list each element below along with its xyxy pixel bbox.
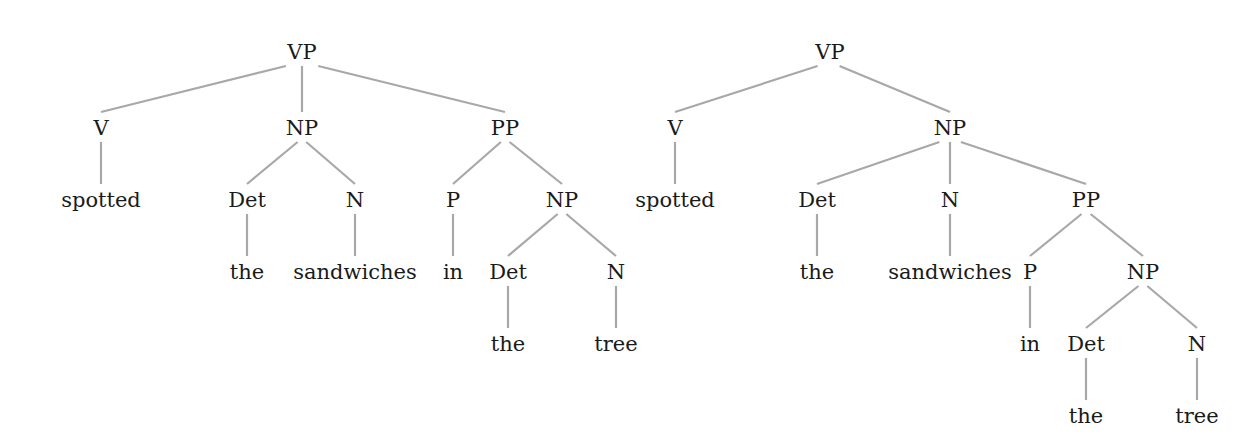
tree-node-pp: PP xyxy=(1072,188,1100,212)
tree-edge xyxy=(101,66,286,112)
tree-node-the: the xyxy=(800,260,834,284)
tree-edge xyxy=(1086,286,1138,328)
tree-node-det: Det xyxy=(489,260,527,284)
tree-node-np: NP xyxy=(934,116,967,140)
tree-edge xyxy=(961,142,1086,184)
tree-edge xyxy=(1147,286,1197,328)
tree-node-the: the xyxy=(230,260,264,284)
tree-node-vp: VP xyxy=(286,40,316,64)
tree-edge xyxy=(508,214,558,256)
tree-node-tree: tree xyxy=(1175,404,1218,428)
tree-node-det: Det xyxy=(1067,332,1105,356)
tree-node-det: Det xyxy=(798,188,836,212)
tree-node-n: N xyxy=(941,188,959,212)
syntax-tree-diagram: VPVNPPPspottedDetNPNPthesandwichesinDetN… xyxy=(0,0,1253,448)
tree-node-spotted: spotted xyxy=(61,188,141,212)
tree-edge xyxy=(318,66,505,112)
tree-node-det: Det xyxy=(228,188,266,212)
tree-node-v: V xyxy=(666,116,683,140)
tree-node-in: in xyxy=(443,260,463,284)
tree-node-p: P xyxy=(446,188,460,212)
tree-node-np: NP xyxy=(1127,260,1160,284)
tree-edge xyxy=(247,142,298,184)
tree-node-n: N xyxy=(1188,332,1206,356)
tree-node-n: N xyxy=(607,260,625,284)
tree-node-sandwiches: sandwiches xyxy=(293,260,416,284)
tree-edge xyxy=(566,214,616,256)
tree-edge xyxy=(510,142,562,184)
tree-node-p: P xyxy=(1023,260,1037,284)
tree-edge xyxy=(453,142,501,184)
tree-node-in: in xyxy=(1020,332,1040,356)
tree-node-tree: tree xyxy=(594,332,637,356)
tree-node-sandwiches: sandwiches xyxy=(888,260,1011,284)
tree-edge xyxy=(675,66,818,112)
tree-edge xyxy=(840,66,950,112)
tree-node-n: N xyxy=(346,188,364,212)
tree-node-spotted: spotted xyxy=(635,188,715,212)
tree-node-v: V xyxy=(92,116,109,140)
tree-node-vp: VP xyxy=(814,40,844,64)
tree-edge xyxy=(1091,214,1143,256)
tree-edge xyxy=(1030,214,1082,256)
tree-edge xyxy=(306,142,355,184)
tree-node-the: the xyxy=(491,332,525,356)
tree-node-labels: VPVNPPPspottedDetNPNPthesandwichesinDetN… xyxy=(61,40,1218,428)
tree-node-np: NP xyxy=(546,188,579,212)
tree-edge xyxy=(817,142,939,184)
tree-node-the: the xyxy=(1069,404,1103,428)
tree-node-pp: PP xyxy=(491,116,519,140)
tree-node-np: NP xyxy=(286,116,319,140)
